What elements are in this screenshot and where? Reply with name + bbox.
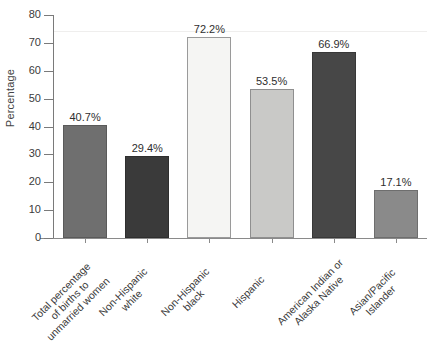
plot-area: 40.7%29.4%72.2%53.5%66.9%17.1% (54, 15, 427, 238)
y-axis-tick-label: 60 (1, 64, 41, 76)
bar: 66.9% (312, 52, 356, 238)
y-axis-tick (44, 210, 53, 211)
y-axis-tick-label: 30 (1, 147, 41, 159)
x-axis-tick (272, 238, 273, 243)
x-axis-tick (396, 238, 397, 243)
y-axis-tick (44, 15, 53, 16)
bar-value-label: 66.9% (318, 38, 349, 50)
y-axis-tick-label: 10 (1, 203, 41, 215)
y-axis-tick-label: 0 (1, 231, 41, 243)
bar: 29.4% (125, 156, 169, 238)
bar: 40.7% (63, 125, 107, 238)
y-axis-tick-label: 50 (1, 92, 41, 104)
bar: 72.2% (187, 37, 231, 238)
bar-value-label: 17.1% (380, 176, 411, 188)
y-axis-tick (44, 71, 53, 72)
bar: 17.1% (374, 190, 418, 238)
y-axis-tick-label: 70 (1, 36, 41, 48)
y-axis-tick (44, 238, 53, 239)
bar-value-label: 29.4% (132, 142, 163, 154)
y-axis-tick-label: 80 (1, 8, 41, 20)
y-axis-tick (44, 154, 53, 155)
y-axis-tick (44, 43, 53, 44)
y-axis-tick (44, 182, 53, 183)
x-axis-tick (209, 238, 210, 243)
x-axis-tick (85, 238, 86, 243)
y-axis-tick (44, 127, 53, 128)
bar-value-label: 53.5% (256, 75, 287, 87)
y-axis-tick (44, 99, 53, 100)
x-axis-line (40, 238, 427, 239)
x-axis-tick (147, 238, 148, 243)
bar-value-label: 40.7% (69, 111, 100, 123)
x-axis-tick (334, 238, 335, 243)
bar-value-label: 72.2% (194, 23, 225, 35)
y-axis-tick-label: 40 (1, 120, 41, 132)
bar: 53.5% (250, 89, 294, 238)
y-axis-tick-label: 20 (1, 175, 41, 187)
